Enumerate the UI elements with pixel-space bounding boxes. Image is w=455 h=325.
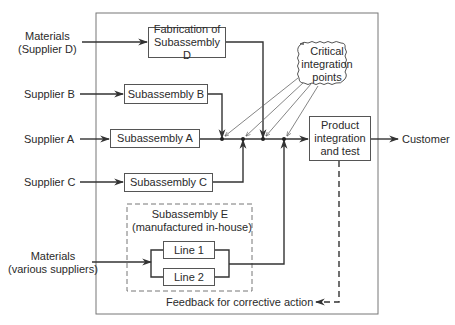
box-fabrication-subassembly-d: Fabrication of Subassembly D [148,27,226,58]
input-supplier-a: Supplier A [24,133,74,146]
box-subassembly-a: Subassembly A [110,129,200,148]
label-line: Critical [298,45,356,58]
box-label: integration [314,132,365,145]
box-label: and test [320,145,359,158]
input-materials-supplier-d: Materials (Supplier D) [18,30,77,56]
box-line-1: Line 1 [163,241,215,259]
label-line: Materials [18,30,77,43]
label-line: points [298,71,356,84]
input-supplier-b: Supplier B [24,88,75,101]
box-subassembly-c: Subassembly C [124,173,213,192]
box-subassembly-b: Subassembly B [124,84,208,104]
box-product-integration-test: Product integration and test [309,116,371,161]
feedback-label: Feedback for corrective action [166,296,313,309]
label-line: Materials [8,250,98,263]
box-label: Product [321,119,359,132]
label-line: Subassembly E [132,208,248,221]
box-label: Fabrication of [154,23,221,36]
label-line: (Supplier D) [18,43,77,56]
box-label: Subassembly D [149,36,225,62]
callout-critical-integration-points: Critical integration points [298,45,356,84]
box-line-2: Line 2 [163,268,215,286]
input-supplier-c: Supplier C [24,176,75,189]
label-line: (manufactured in-house) [132,221,248,234]
subassembly-e-title: Subassembly E (manufactured in-house) [132,208,248,234]
output-customer: Customer [402,133,450,146]
input-materials-various: Materials (various suppliers) [8,250,98,276]
label-line: (various suppliers) [8,263,98,276]
label-line: integration [298,58,356,71]
callout-pointers [225,78,318,136]
